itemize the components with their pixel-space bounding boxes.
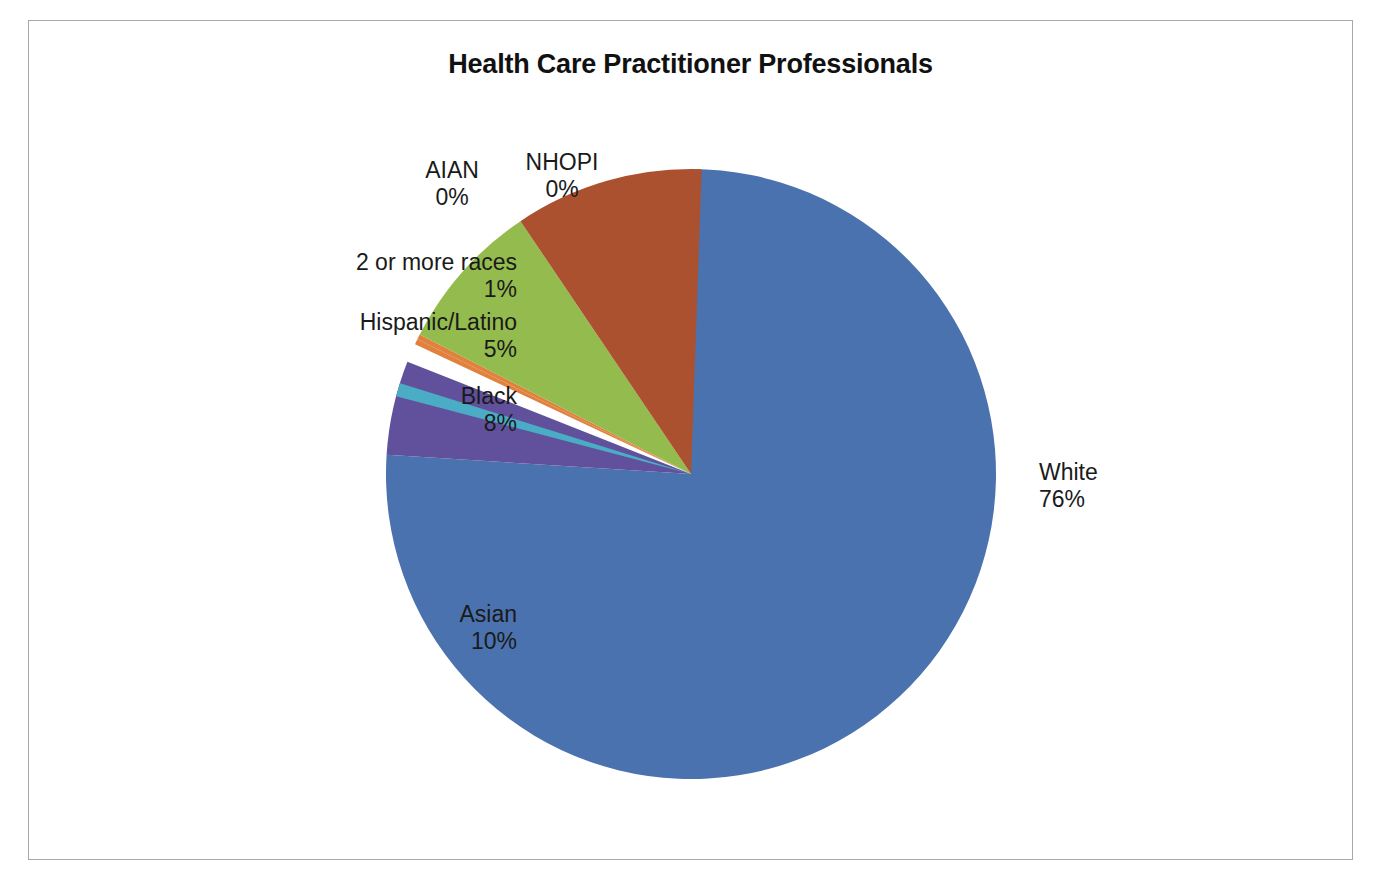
- pie-label-two-or-more-races: 2 or more races 1%: [197, 249, 517, 303]
- pie-label-white-value: 76%: [1039, 486, 1239, 513]
- pie-label-asian-value: 10%: [197, 628, 517, 655]
- pie-label-two-or-more-races-value: 1%: [197, 276, 517, 303]
- pie-label-black: Black 8%: [197, 383, 517, 437]
- pie-label-asian-name: Asian: [197, 601, 517, 628]
- pie-label-white-name: White: [1039, 459, 1239, 486]
- pie-label-nhopi: NHOPI 0%: [507, 149, 617, 203]
- chart-frame: Health Care Practitioner Professionals A…: [28, 20, 1353, 860]
- pie-chart: AIAN 0% NHOPI 0% 2 or more races 1% Hisp…: [29, 21, 1352, 859]
- pie-label-aian: AIAN 0%: [397, 157, 507, 211]
- pie-label-aian-value: 0%: [397, 184, 507, 211]
- pie-label-aian-name: AIAN: [397, 157, 507, 184]
- pie-label-black-name: Black: [197, 383, 517, 410]
- pie-label-hispanic-latino-value: 5%: [197, 336, 517, 363]
- pie-label-white: White 76%: [1039, 459, 1239, 513]
- pie-label-hispanic-latino: Hispanic/Latino 5%: [197, 309, 517, 363]
- pie-label-nhopi-name: NHOPI: [507, 149, 617, 176]
- pie-label-two-or-more-races-name: 2 or more races: [197, 249, 517, 276]
- pie-label-black-value: 8%: [197, 410, 517, 437]
- pie-label-nhopi-value: 0%: [507, 176, 617, 203]
- pie-label-asian: Asian 10%: [197, 601, 517, 655]
- pie-label-hispanic-latino-name: Hispanic/Latino: [197, 309, 517, 336]
